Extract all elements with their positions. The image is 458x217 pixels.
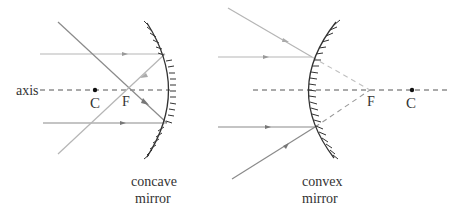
ray-reflected-down xyxy=(58,22,167,123)
mirror-diagram: axis C F concave mirror xyxy=(0,0,458,217)
arrow-icon xyxy=(283,143,289,149)
virtual-ray-top xyxy=(312,57,370,90)
arrow-icon xyxy=(120,121,126,125)
virtual-ray-bottom xyxy=(315,90,370,127)
label-c-left: C xyxy=(90,95,100,111)
arrow-icon xyxy=(282,38,289,42)
caption-convex-line2: mirror xyxy=(302,191,338,206)
caption-concave-line1: concave xyxy=(131,174,177,189)
label-f-right: F xyxy=(367,94,375,109)
concave-mirror-figure: axis C F concave mirror xyxy=(16,21,177,206)
axis-label: axis xyxy=(16,83,39,98)
ray-reflected-bottom-right xyxy=(232,127,315,179)
label-f-left: F xyxy=(122,94,130,109)
ray-reflected-up xyxy=(58,54,165,154)
ray-reflected-top-right xyxy=(228,8,312,57)
arrow-icon xyxy=(122,52,128,56)
center-of-curvature-point xyxy=(93,88,97,92)
center-of-curvature-point-right xyxy=(410,88,414,92)
label-c-right: C xyxy=(406,95,416,111)
arrow-icon xyxy=(265,125,271,129)
arrow-icon xyxy=(141,98,149,105)
caption-concave-line2: mirror xyxy=(135,191,171,206)
caption-convex-line1: convex xyxy=(302,174,342,189)
arrow-icon xyxy=(263,55,269,59)
convex-mirror-figure: F C convex mirror xyxy=(218,8,448,206)
